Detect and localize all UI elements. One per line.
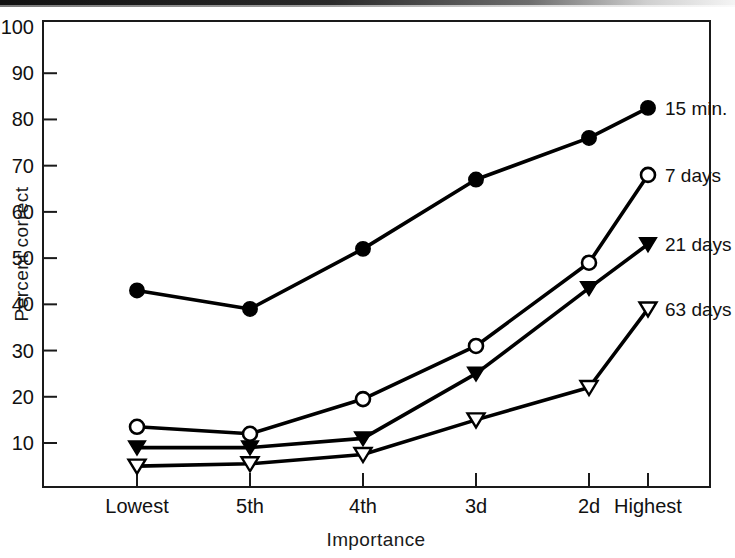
x-category-label-4th: 4th [349,495,377,517]
marker-7-days-2d [582,256,596,270]
marker-7-days-3d [469,339,483,353]
marker-7-days-lowest [130,420,144,434]
series-label-7-days: 7 days [665,165,721,186]
marker-15-min--4th [356,242,370,256]
series-markers [129,101,657,474]
y-tick-label-90: 90 [12,62,34,84]
x-axis-ticks [137,473,648,487]
plot-frame [43,21,710,487]
x-category-label-highest: Highest [614,495,682,517]
y-tick-label-20: 20 [12,386,34,408]
series-end-labels: 15 min.7 days21 days63 days [665,98,732,320]
series-label-63-days: 63 days [665,299,732,320]
marker-7-days-4th [356,392,370,406]
marker-7-days-5th [243,427,257,441]
x-category-label-lowest: Lowest [105,495,169,517]
series-lines [137,108,648,466]
x-category-label-5th: 5th [236,495,264,517]
marker-15-min--3d [469,172,483,186]
marker-7-days-highest [641,168,655,182]
y-tick-label-100: 100 [1,16,34,38]
x-axis-category-labels: Lowest5th4th3d2dHighest [105,495,682,517]
x-category-label-3d: 3d [465,495,487,517]
line-chart-plot: 100908070605040302010 Lowest5th4th3d2dHi… [0,0,735,558]
marker-15-min--2d [582,131,596,145]
series-label-15-min-: 15 min. [665,98,727,119]
series-line-15-min- [137,108,648,309]
y-axis-title: Percent correct [11,186,32,321]
marker-15-min--highest [641,101,655,115]
y-tick-label-70: 70 [12,155,34,177]
series-line-63-days [137,309,648,466]
chart-figure: 100908070605040302010 Lowest5th4th3d2dHi… [0,0,735,558]
y-tick-label-80: 80 [12,108,34,130]
marker-15-min--5th [243,302,257,316]
x-axis-title: Importance [326,529,425,550]
x-category-label-2d: 2d [578,495,600,517]
y-tick-label-30: 30 [12,340,34,362]
series-label-21-days: 21 days [665,234,732,255]
y-axis-ticks [43,73,57,443]
y-tick-label-10: 10 [12,432,34,454]
marker-15-min--lowest [130,283,144,297]
